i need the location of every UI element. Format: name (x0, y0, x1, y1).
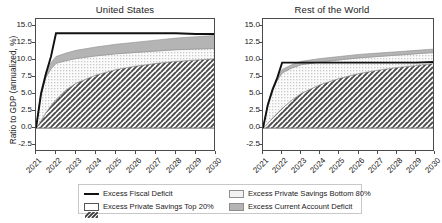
y-axis-tick-mark (32, 42, 35, 43)
dots-swatch-icon (229, 190, 244, 198)
x-axis-tick: 2024 (79, 156, 104, 181)
x-axis-tick: 2022 (39, 156, 64, 181)
x-axis-tick-mark (55, 151, 56, 154)
x-axis-tick: 2027 (139, 156, 164, 181)
y-axis-tick-mark (259, 127, 262, 128)
y-axis-tick: 7.5 (228, 71, 260, 80)
x-axis-tick-mark (338, 151, 339, 154)
x-axis-tick-mark (396, 151, 397, 154)
y-axis-tick: 15.0 (228, 20, 260, 29)
x-axis-tick-mark (262, 151, 263, 154)
plot-area-united-states (35, 18, 215, 151)
hatch-swatch-icon (84, 203, 99, 211)
x-axis-tick-mark (135, 151, 136, 154)
x-axis-tick-mark (281, 151, 282, 154)
x-axis-tick-mark (415, 151, 416, 154)
y-axis-tick-mark (259, 25, 262, 26)
legend-item-bottom80: Excess Private Savings Bottom 80% (229, 187, 371, 200)
y-axis-tick: 12.5 (228, 37, 260, 46)
y-axis-tick-mark (32, 59, 35, 60)
x-axis-tick: 2028 (159, 156, 184, 181)
x-axis-tick-mark (434, 151, 435, 154)
x-axis-tick-mark (377, 151, 378, 154)
y-axis-tick: 15.0 (0, 20, 32, 29)
x-axis-tick: 2029 (179, 156, 204, 181)
legend-label: Excess Current Account Deficit (248, 202, 352, 211)
legend-label: Excess Private Savings Top 20% (103, 202, 214, 211)
y-axis-tick: 2.5 (0, 105, 32, 114)
x-axis-tick-mark (35, 151, 36, 154)
y-axis-tick-mark (32, 25, 35, 26)
y-axis-tick: -2.5 (0, 139, 32, 148)
x-axis-tick: 2030 (199, 156, 224, 181)
y-axis-tick: 0.0 (0, 122, 32, 131)
y-axis-tick: -2.5 (228, 139, 260, 148)
y-axis-tick: 5.0 (0, 88, 32, 97)
legend-item-fiscal-deficit: Excess Fiscal Deficit (84, 187, 173, 200)
x-axis-tick-mark (155, 151, 156, 154)
y-axis-tick: 12.5 (0, 37, 32, 46)
x-axis-tick-mark (95, 151, 96, 154)
x-axis-tick-mark (319, 151, 320, 154)
x-axis-tick: 2025 (322, 156, 347, 181)
y-axis-tick-mark (32, 110, 35, 111)
y-axis-tick: 7.5 (0, 71, 32, 80)
x-axis-tick: 2023 (59, 156, 84, 181)
legend-item-top20: Excess Private Savings Top 20% (84, 200, 214, 213)
y-axis-tick-mark (32, 127, 35, 128)
x-axis-tick-mark (358, 151, 359, 154)
legend-label: Excess Fiscal Deficit (103, 189, 173, 198)
y-axis-tick-mark (32, 76, 35, 77)
y-axis-tick-mark (259, 42, 262, 43)
x-axis-tick: 2025 (99, 156, 124, 181)
x-axis-tick-mark (175, 151, 176, 154)
y-axis-tick-mark (259, 93, 262, 94)
y-axis-tick-mark (259, 144, 262, 145)
y-axis-tick: 2.5 (228, 105, 260, 114)
x-axis-tick-mark (195, 151, 196, 154)
x-axis-tick-mark (300, 151, 301, 154)
y-axis-tick: 0.0 (228, 122, 260, 131)
legend-label: Excess Private Savings Bottom 80% (248, 189, 371, 198)
panel-united-states: United States Ratio to GDP (annualized, … (0, 0, 222, 180)
line-swatch-icon (84, 190, 99, 198)
y-axis-tick: 10.0 (0, 54, 32, 63)
x-axis-tick: 2026 (341, 156, 366, 181)
legend-item-current-account: Excess Current Account Deficit (229, 200, 352, 213)
panel-title-united-states: United States (30, 4, 220, 15)
chart-legend: Excess Fiscal Deficit Excess Private Sav… (78, 184, 362, 214)
panel-title-rest-of-world: Rest of the World (232, 4, 432, 15)
y-axis-tick-mark (259, 59, 262, 60)
x-axis-tick-mark (75, 151, 76, 154)
y-axis-tick-mark (32, 93, 35, 94)
y-axis-tick: 10.0 (228, 54, 260, 63)
x-axis-tick: 2021 (19, 156, 44, 181)
x-axis-tick-mark (215, 151, 216, 154)
x-axis-tick: 2026 (119, 156, 144, 181)
x-axis-tick-mark (115, 151, 116, 154)
y-axis-tick-mark (32, 144, 35, 145)
plot-area-rest-of-world (262, 18, 434, 151)
y-axis-tick-mark (259, 110, 262, 111)
panel-rest-of-world: Rest of the World -2.50.02.55.07.510.012… (222, 0, 439, 180)
y-axis-tick-mark (259, 76, 262, 77)
gray-swatch-icon (229, 203, 244, 211)
y-axis-tick: 5.0 (228, 88, 260, 97)
